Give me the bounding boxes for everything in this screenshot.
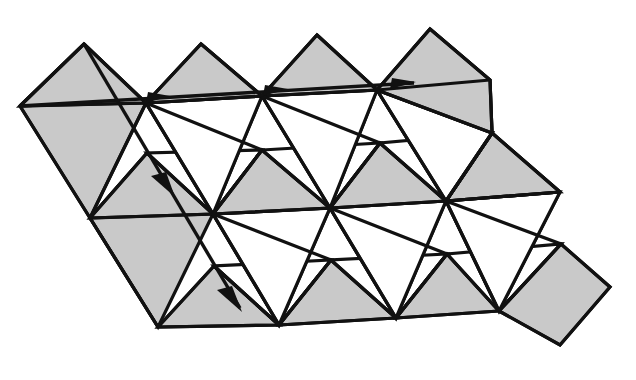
figure-root (0, 0, 636, 380)
tiling-diagram (0, 0, 636, 380)
